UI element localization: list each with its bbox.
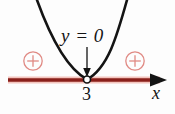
down-arrow-icon: [83, 47, 91, 77]
open-circle-icon: [84, 76, 91, 83]
function-value-label: y = 0: [61, 26, 104, 45]
root-tick-label: 3: [82, 85, 91, 103]
circled-plus-icon-left: [24, 52, 42, 70]
circled-plus-icon-right: [126, 52, 144, 70]
parabola-sign-chart-figure: y = 0 3 x: [0, 0, 175, 114]
x-axis-label: x: [152, 84, 160, 102]
